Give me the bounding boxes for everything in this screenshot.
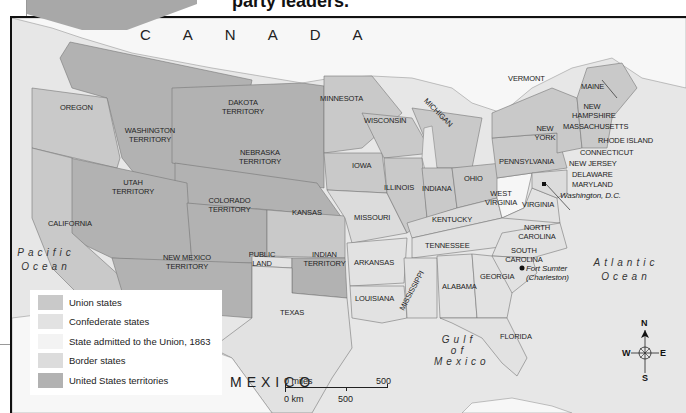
region-label-arkansas: ARKANSAS: [354, 258, 394, 267]
legend-swatch-admitted-1863: [38, 334, 63, 349]
region-label-california: CALIFORNIA: [48, 219, 92, 228]
region-label-dakota-territory: DAKOTA TERRITORY: [218, 98, 268, 116]
scale-km-mid: 500: [338, 394, 353, 404]
scale-tick: [285, 384, 286, 392]
region-label-maine: MAINE: [581, 82, 604, 91]
legend-label: Confederate states: [69, 316, 149, 327]
header-arrow-banner: [27, 0, 197, 32]
region-label-new-hampshire: NEW HAMPSHIRE: [572, 102, 612, 120]
region-label-florida: FLORIDA: [500, 332, 532, 341]
legend-item-border: Border states: [38, 352, 126, 368]
legend-swatch-union: [38, 295, 63, 310]
legend-item-territories: United States territories: [38, 372, 168, 388]
legend-item-confederate: Confederate states: [38, 313, 149, 329]
region-label-nebraska-territory: NEBRASKA TERRITORY: [230, 148, 290, 166]
legend-label: Union states: [69, 297, 122, 308]
region-label-pennsylvania: PENNSYLVANIA: [499, 157, 554, 166]
region-label-washington-territory: WASHINGTON TERRITORY: [120, 126, 180, 144]
compass-rose-icon: [620, 318, 670, 388]
region-label-indian-territory: INDIAN TERRITORY: [302, 250, 347, 268]
gulf-line-3: Mexico: [434, 356, 484, 367]
region-label-iowa: IOWA: [352, 161, 371, 170]
region-label-alabama: ALABAMA: [442, 282, 477, 291]
region-label-virginia: VIRGINIA: [522, 200, 554, 209]
iowa: [324, 153, 387, 193]
scale-line: [285, 387, 387, 388]
legend-swatch-territories: [38, 373, 63, 388]
gulf-line-1: Gulf: [434, 334, 484, 345]
page-guide-line: [0, 344, 10, 345]
legend-item-admitted-1863: State admitted to the Union, 1863: [38, 333, 211, 349]
region-label-connecticut: CONNECTICUT: [580, 148, 633, 157]
region-label-maryland: MARYLAND: [572, 180, 613, 189]
legend: Union states Confederate states State ad…: [30, 290, 222, 395]
region-label-wisconsin: WISCONSIN: [364, 116, 406, 125]
atlantic-ocean-line-2: Ocean: [586, 270, 666, 284]
region-label-new-york: NEW YORK: [533, 124, 557, 142]
scale-km-start: 0 km: [284, 394, 304, 404]
region-label-utah-territory: UTAH TERRITORY: [108, 178, 158, 196]
region-label-vermont: VERMONT: [508, 74, 545, 83]
scale-miles-end: 500: [376, 376, 391, 386]
scale-tick: [387, 384, 388, 388]
map-frame: CANADA OREGON WASHINGTON TERRITORY DAKOT…: [10, 16, 686, 413]
region-label-colorado-territory: COLORADO TERRITORY: [202, 196, 257, 214]
legend-label: United States territories: [69, 375, 168, 386]
scale-bar: 0 miles 500 0 km 500: [284, 376, 394, 412]
region-label-delaware: DELAWARE: [572, 170, 613, 179]
fort-sumter-label: Fort Sumter: [526, 264, 567, 273]
legend-item-union: Union states: [38, 294, 122, 310]
region-label-public-land: PUBLIC LAND: [248, 250, 276, 268]
compass-rose: N W E S: [620, 318, 670, 388]
washington-dc-marker: [542, 182, 546, 186]
region-label-massachusetts: MASSACHUSETTS: [563, 122, 628, 131]
atlantic-ocean-line-1: Atlantic: [586, 256, 666, 270]
pacific-ocean-line-1: Pacific: [16, 246, 76, 260]
region-label-rhode-island: RHODE ISLAND: [598, 136, 653, 145]
scale-tick: [346, 387, 347, 391]
region-label-south-carolina: SOUTH CAROLINA: [504, 246, 544, 264]
region-label-kansas: KANSAS: [292, 208, 322, 217]
fort-sumter-marker: [520, 266, 525, 271]
region-label-west-virginia: WEST VIRGINIA: [485, 189, 517, 207]
pacific-ocean-line-2: Ocean: [16, 260, 76, 274]
pacific-ocean-label: Pacific Ocean: [16, 246, 76, 274]
region-label-new-mexico-territory: NEW MEXICO TERRITORY: [157, 253, 217, 271]
gulf-line-2: of: [434, 345, 484, 356]
atlantic-ocean-label: Atlantic Ocean: [586, 256, 666, 284]
gulf-of-mexico-label: Gulf of Mexico: [434, 334, 484, 367]
fort-sumter-sublabel: (Charleston): [526, 273, 569, 282]
legend-swatch-border: [38, 353, 63, 368]
scale-miles-start: 0 miles: [284, 376, 313, 386]
region-label-georgia: GEORGIA: [480, 272, 514, 281]
region-label-minnesota: MINNESOTA: [320, 94, 363, 103]
region-label-new-jersey: NEW JERSEY: [569, 159, 617, 168]
cuba: [462, 398, 572, 413]
region-label-kentucky: KENTUCKY: [432, 215, 472, 224]
legend-label: Border states: [69, 355, 126, 366]
washington-dc-label: Washington, D.C.: [560, 191, 621, 200]
caption-fragment: party leaders.: [232, 0, 349, 12]
region-label-indiana: INDIANA: [422, 184, 452, 193]
region-label-north-carolina: NORTH CAROLINA: [517, 223, 557, 241]
region-label-illinois: ILLINOIS: [384, 183, 414, 192]
legend-swatch-confederate: [38, 314, 63, 329]
legend-label: State admitted to the Union, 1863: [69, 336, 211, 347]
region-label-louisiana: LOUISIANA: [355, 294, 394, 303]
region-label-texas: TEXAS: [280, 308, 304, 317]
region-label-oregon: OREGON: [60, 103, 93, 112]
region-label-tennessee: TENNESSEE: [425, 241, 470, 250]
region-label-missouri: MISSOURI: [354, 213, 390, 222]
region-label-ohio: OHIO: [464, 174, 483, 183]
